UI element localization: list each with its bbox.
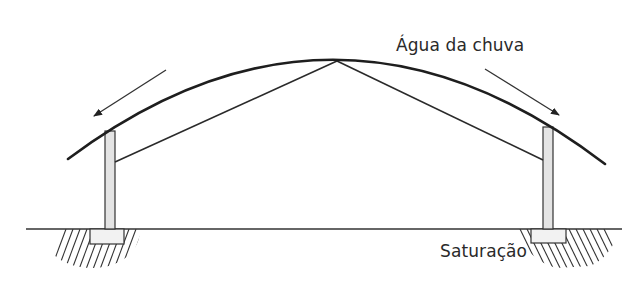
saturation-label: Saturação [440,243,527,260]
arched-roof [68,60,605,164]
right-runoff-arrow [485,69,559,115]
right-footing [531,229,566,243]
right-column [543,127,553,229]
rain-water-label: Água da chuva [396,37,524,54]
roof-structure-drawing [0,0,636,288]
diagram-canvas: Água da chuva Saturação [0,0,636,288]
left-runoff-arrow [94,70,166,116]
left-footing [90,229,124,244]
left-column [105,131,115,229]
